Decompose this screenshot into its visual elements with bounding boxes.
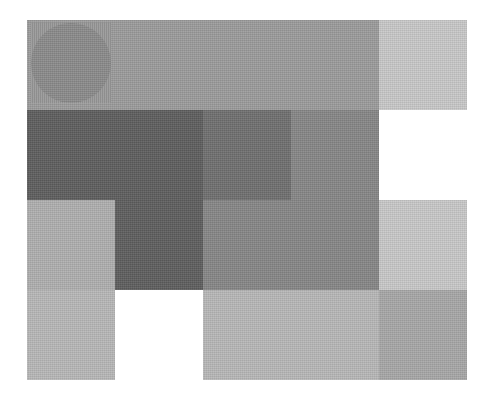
speckled-medium-right	[291, 110, 379, 200]
dark-block-row1	[27, 110, 203, 200]
medium-dark-square	[203, 110, 291, 200]
light-middle-row3	[203, 290, 379, 380]
medium-right-row3	[379, 290, 467, 380]
light-left-row2	[27, 200, 115, 290]
light-left-row3	[27, 290, 115, 380]
circle	[31, 23, 111, 103]
abstract-composition	[0, 0, 497, 411]
dark-block-col1-row2	[115, 200, 203, 290]
speckled-medium-row2	[203, 200, 379, 290]
top-right-tile	[379, 20, 467, 110]
light-right-row2	[379, 200, 467, 290]
